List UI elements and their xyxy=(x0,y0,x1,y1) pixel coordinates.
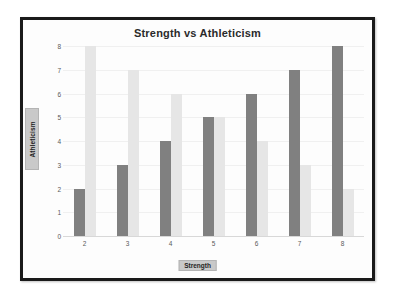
bar-series-b-5[interactable] xyxy=(214,117,225,236)
y-axis-title-label: Athleticism xyxy=(29,121,36,157)
bar-series-a-3[interactable] xyxy=(117,165,128,236)
y-axis-tick-label: 7 xyxy=(47,66,61,73)
bar-series-b-2[interactable] xyxy=(85,46,96,236)
chart-frame: Strength vs Athleticism Athleticism 0123… xyxy=(20,17,375,281)
bar-series-a-2[interactable] xyxy=(74,189,85,237)
x-axis-tick-label: 5 xyxy=(192,240,235,252)
x-axis-tick-label: 7 xyxy=(278,240,321,252)
chart-page: Strength vs Athleticism Athleticism 0123… xyxy=(0,0,395,299)
bar-series-a-8[interactable] xyxy=(332,46,343,236)
x-axis-tick-label: 4 xyxy=(149,240,192,252)
bars-layer xyxy=(63,46,364,236)
y-axis-tick-label: 5 xyxy=(47,114,61,121)
bar-series-a-6[interactable] xyxy=(246,94,257,237)
y-axis-tick-label: 2 xyxy=(47,185,61,192)
y-axis-tick-label: 6 xyxy=(47,90,61,97)
x-axis-tick-label: 2 xyxy=(63,240,106,252)
y-axis-tick-label: 0 xyxy=(47,233,61,240)
gridline xyxy=(63,236,364,237)
x-axis-tick-label: 6 xyxy=(235,240,278,252)
x-axis-title: Strength xyxy=(178,260,217,271)
bar-group xyxy=(149,46,192,236)
bar-group xyxy=(192,46,235,236)
y-axis-tick-label: 1 xyxy=(47,209,61,216)
bar-group xyxy=(235,46,278,236)
bar-group xyxy=(321,46,364,236)
y-axis-tick-label: 8 xyxy=(47,43,61,50)
x-axis-tick-labels: 2345678 xyxy=(63,240,364,252)
bar-series-a-7[interactable] xyxy=(289,70,300,236)
bar-series-a-4[interactable] xyxy=(160,141,171,236)
plot-area: 012345678 xyxy=(63,46,364,236)
bar-series-b-3[interactable] xyxy=(128,70,139,236)
bar-series-b-4[interactable] xyxy=(171,94,182,237)
y-axis-title: Athleticism xyxy=(25,108,39,170)
y-axis-tick-labels: 012345678 xyxy=(47,46,61,236)
bar-group xyxy=(106,46,149,236)
x-axis-tick-label: 8 xyxy=(321,240,364,252)
y-axis-tick-label: 3 xyxy=(47,161,61,168)
bar-series-b-7[interactable] xyxy=(300,165,311,236)
y-axis-tick-label: 4 xyxy=(47,138,61,145)
bar-group xyxy=(63,46,106,236)
bar-series-b-8[interactable] xyxy=(343,189,354,237)
bar-series-a-5[interactable] xyxy=(203,117,214,236)
chart-title: Strength vs Athleticism xyxy=(23,27,372,39)
x-axis-tick-label: 3 xyxy=(106,240,149,252)
bar-group xyxy=(278,46,321,236)
bar-series-b-6[interactable] xyxy=(257,141,268,236)
